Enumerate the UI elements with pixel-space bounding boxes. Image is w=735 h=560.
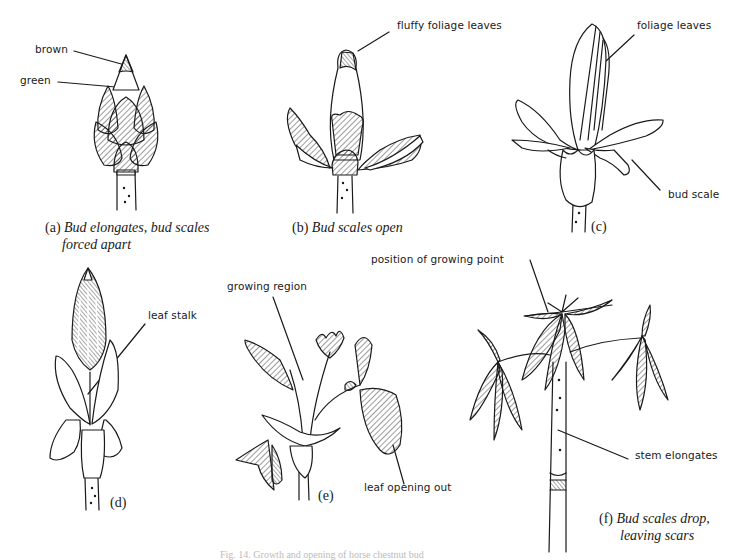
bud-c-drawing xyxy=(512,24,663,232)
bud-a-drawing xyxy=(58,51,158,210)
label-bud-scale: bud scale xyxy=(668,188,719,200)
figure-caption: Fig. 14. Growth and opening of horse che… xyxy=(220,549,424,560)
label-growing-region: growing region xyxy=(227,280,307,292)
caption-f-line1: Bud scales drop, xyxy=(617,511,710,526)
bud-f-drawing xyxy=(470,260,668,552)
caption-a-line2: forced apart xyxy=(62,236,131,253)
label-leaf-stalk: leaf stalk xyxy=(148,309,197,321)
label-leaf-opening-out: leaf opening out xyxy=(364,481,451,493)
panel-letter-a: (a) xyxy=(45,220,61,235)
caption-b-line1: Bud scales open xyxy=(312,220,403,235)
caption-f: (f) Bud scales drop, xyxy=(599,510,710,527)
panel-letter-f: (f) xyxy=(599,511,613,526)
label-foliage-leaves: foliage leaves xyxy=(637,19,711,31)
panel-letter-e: (e) xyxy=(318,487,334,504)
panel-letter-d: (d) xyxy=(110,494,126,511)
panel-letter-c: (c) xyxy=(591,218,607,235)
bud-e-drawing xyxy=(236,297,404,500)
panel-letter-b: (b) xyxy=(292,220,308,235)
caption-f-line2: leaving scars xyxy=(620,527,694,544)
caption-b: (b) Bud scales open xyxy=(292,219,403,236)
caption-a-line1: Bud elongates, bud scales xyxy=(64,220,209,235)
label-green: green xyxy=(20,74,51,86)
label-fluffy-foliage-leaves: fluffy foliage leaves xyxy=(397,19,502,31)
label-stem-elongates: stem elongates xyxy=(635,449,718,461)
label-brown: brown xyxy=(35,43,68,55)
label-position-of-growing-point: position of growing point xyxy=(371,253,504,265)
bud-d-drawing xyxy=(50,268,145,510)
caption-a: (a) Bud elongates, bud scales xyxy=(45,219,209,236)
bud-b-drawing xyxy=(287,32,423,213)
